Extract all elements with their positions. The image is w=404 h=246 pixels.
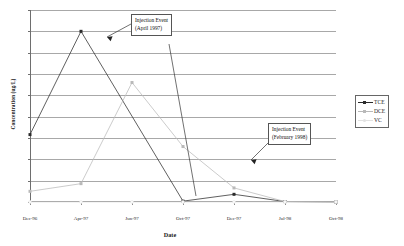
- data-series-layer: [30, 10, 336, 202]
- legend-swatch-tce-icon: [358, 98, 373, 107]
- x-tick-label: Dec-96: [7, 216, 53, 222]
- data-point-dce: [29, 190, 32, 193]
- legend-item-vc[interactable]: VC: [358, 116, 385, 125]
- data-point-tce: [233, 193, 236, 196]
- legend-label: VC: [373, 116, 382, 125]
- data-point-vc: [29, 201, 32, 204]
- plot-area: 050010001500200025003000350040004500 Dec…: [30, 10, 336, 202]
- legend-label: DCE: [373, 107, 385, 116]
- x-tick-label: Dec-97: [211, 216, 257, 222]
- annotation-april-line2: (April 1997): [135, 25, 168, 33]
- x-axis-title: Date: [0, 231, 340, 238]
- legend-item-tce[interactable]: TCE: [358, 98, 385, 107]
- data-point-dce: [182, 145, 185, 148]
- legend-label: TCE: [373, 98, 385, 107]
- data-point-vc: [131, 201, 134, 204]
- data-point-vc: [233, 201, 236, 204]
- x-tick-label: Apr-97: [58, 216, 104, 222]
- chart-legend: TCEDCEVC: [355, 95, 389, 128]
- annotation-february-line2: (February 1998): [272, 134, 307, 142]
- chart-container: Concentration (ug/L) Date 05001000150020…: [0, 0, 404, 246]
- series-line-tce: [30, 31, 336, 202]
- data-point-tce: [29, 133, 32, 136]
- x-tick-label: Jun-97: [109, 216, 155, 222]
- annotation-february-line1: Injection Event: [272, 126, 307, 134]
- x-tick-label: Oct-97: [160, 216, 206, 222]
- data-point-vc: [80, 201, 83, 204]
- data-point-dce: [233, 186, 236, 189]
- data-point-vc: [335, 201, 338, 204]
- data-point-vc: [182, 201, 185, 204]
- x-tick-label: Jul-98: [262, 216, 308, 222]
- annotation-february-1998: Injection Event (February 1998): [268, 123, 311, 145]
- annotation-april-1997: Injection Event (April 1997): [131, 14, 172, 36]
- legend-marker: [363, 119, 366, 122]
- legend-swatch-vc-icon: [358, 116, 373, 125]
- legend-swatch-dce-icon: [358, 107, 373, 116]
- legend-marker: [363, 101, 366, 104]
- data-point-dce: [80, 182, 83, 185]
- legend-item-dce[interactable]: DCE: [358, 107, 385, 116]
- y-axis-title: Concentration (ug/L): [10, 44, 16, 164]
- x-tick-label: Oct-98: [313, 216, 359, 222]
- data-point-dce: [131, 81, 134, 84]
- data-point-vc: [284, 201, 287, 204]
- legend-marker: [363, 110, 366, 113]
- annotation-april-line1: Injection Event: [135, 17, 168, 25]
- data-point-tce: [80, 30, 83, 33]
